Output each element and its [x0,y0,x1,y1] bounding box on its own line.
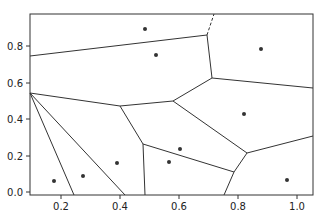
voronoi-points [52,27,289,183]
y-tick-label: 0.8 [7,41,23,52]
ridge [212,78,313,88]
ridge [30,93,74,195]
ridge [30,93,120,106]
point [154,53,158,57]
ridge [207,35,212,78]
ridge [234,153,247,172]
point [52,179,56,183]
ridge [143,144,145,195]
point [81,174,85,178]
ridge-infinite [207,14,214,35]
ridge [120,101,173,106]
y-tick-label: 0.6 [7,78,23,89]
x-ticks [61,195,297,199]
ridge [30,93,125,195]
voronoi-plot: 0.2 0.4 0.6 0.8 1.0 0.0 0.2 0.4 0.6 0.8 [0,0,319,216]
ridge [173,101,247,153]
voronoi-ridges [30,14,313,195]
point [167,160,171,164]
point [242,112,246,116]
x-tick-label: 0.2 [53,201,69,212]
ridge [224,172,234,195]
x-tick-labels: 0.2 0.4 0.6 0.8 1.0 [53,201,305,212]
point [143,27,147,31]
y-tick-label: 0.4 [7,114,23,125]
axes-frame [30,14,313,195]
y-ticks [26,46,30,192]
point [115,161,119,165]
y-tick-labels: 0.0 0.2 0.4 0.6 0.8 [7,41,23,198]
y-tick-label: 0.2 [7,151,23,162]
point [285,178,289,182]
ridge [30,35,207,56]
x-tick-label: 0.6 [171,201,187,212]
ridge [143,144,234,172]
ridge [173,78,212,101]
x-tick-label: 1.0 [289,201,305,212]
point [259,47,263,51]
ridge [247,136,313,153]
x-tick-label: 0.4 [112,201,128,212]
ridge [120,106,143,144]
point [178,147,182,151]
x-tick-label: 0.8 [230,201,246,212]
y-tick-label: 0.0 [7,187,23,198]
